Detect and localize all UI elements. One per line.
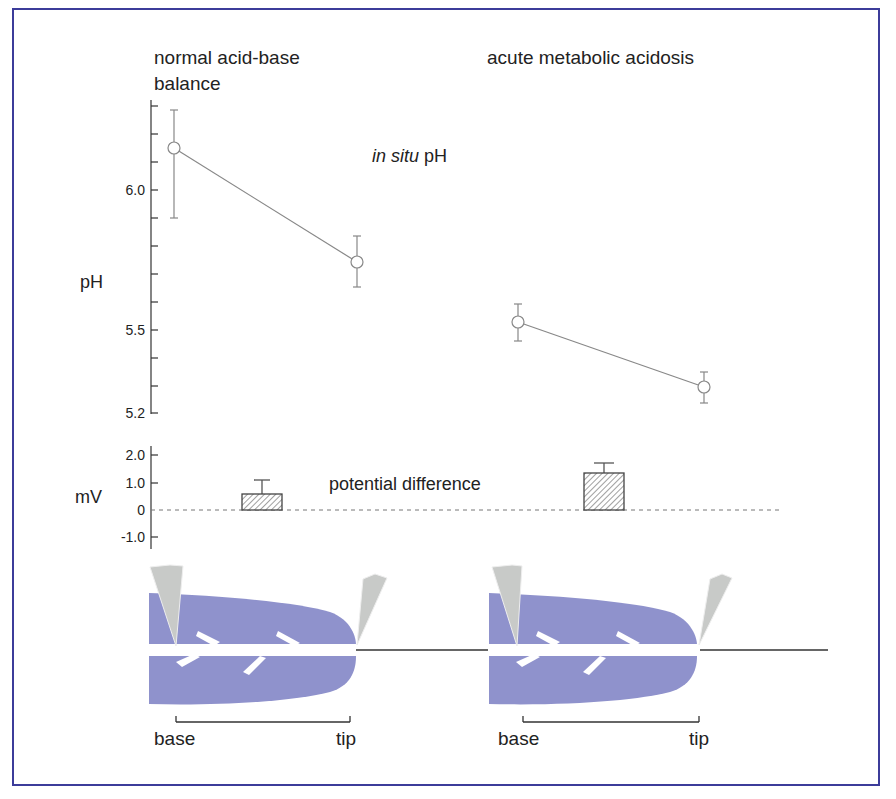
- title-normal-line2: balance: [154, 73, 221, 94]
- mv-axis-label: mV: [75, 487, 102, 507]
- mv-tick-0: 0: [137, 502, 145, 518]
- mv-tick-1: 1.0: [126, 475, 146, 491]
- villus-normal: [149, 565, 387, 722]
- electrode-tip-icon: [357, 574, 387, 645]
- bar-acidosis: [584, 463, 624, 510]
- ph-tick-5-5: 5.5: [126, 322, 146, 338]
- ph-tick-6-0: 6.0: [126, 182, 146, 198]
- potential-difference-label: potential difference: [329, 474, 481, 494]
- tip-label-acidosis: tip: [689, 728, 709, 749]
- base-label-acidosis: base: [498, 728, 539, 749]
- insitu-ph-label: in situ pH: [372, 146, 447, 166]
- electrode-tip-icon: [699, 574, 732, 645]
- mv-axis: [151, 446, 158, 549]
- bar-normal: [242, 480, 282, 510]
- figure-canvas: normal acid-base balance acute metabolic…: [0, 0, 896, 799]
- data-point-acidosis-base: [512, 316, 524, 328]
- data-point-acidosis-tip: [698, 381, 710, 393]
- data-point-normal-tip: [351, 256, 363, 268]
- ph-axis-label: pH: [80, 272, 103, 292]
- villus-acidosis: [489, 565, 732, 722]
- data-point-normal-base: [168, 142, 180, 154]
- insitu-ph: pH: [419, 146, 447, 166]
- ph-tick-5-2: 5.2: [126, 405, 146, 421]
- insitu-italic: in situ: [372, 146, 419, 166]
- ph-axis: [151, 100, 158, 414]
- ph-series-acidosis: [512, 304, 710, 403]
- tip-label-normal: tip: [336, 728, 356, 749]
- base-label-normal: base: [154, 728, 195, 749]
- title-acidosis: acute metabolic acidosis: [487, 47, 694, 68]
- title-normal-line1: normal acid-base: [154, 47, 300, 68]
- mv-tick-2: 2.0: [126, 447, 146, 463]
- mv-tick-minus-1: -1.0: [121, 529, 145, 545]
- ph-series-normal: [168, 110, 363, 287]
